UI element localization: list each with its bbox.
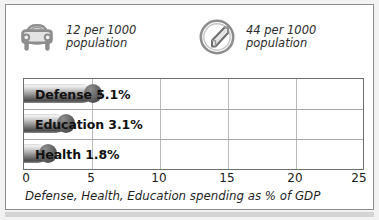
car-front-icon	[14, 15, 60, 59]
bar-row-health: Health 1.8%	[24, 139, 363, 169]
chart-canvas: Defense 5.1% Education 3.1% Health 1.8%	[24, 79, 363, 169]
chart-caption: Defense, Health, Education spending as %…	[25, 189, 320, 203]
x-tick-5: 5	[87, 171, 95, 185]
stat-telephones: 44 per 1000 population	[194, 13, 316, 61]
x-tick-20: 20	[287, 171, 302, 185]
stat-telephones-text: 44 per 1000 population	[246, 24, 316, 50]
bar-row-education: Education 3.1%	[24, 109, 363, 139]
telephone-handset-circle-icon	[194, 15, 240, 59]
bar-label-defense: Defense 5.1%	[35, 79, 130, 109]
bar-row-defense: Defense 5.1%	[24, 79, 363, 109]
content-frame: 12 per 1000 population 44 per 1000 popul…	[5, 4, 374, 210]
x-tick-15: 15	[219, 171, 234, 185]
chart-plot-area: Defense 5.1% Education 3.1% Health 1.8%	[23, 78, 364, 170]
bar-label-health: Health 1.8%	[35, 139, 119, 169]
x-axis: 0 5 10 15 20 25	[23, 171, 364, 187]
stat-cars-text: 12 per 1000 population	[66, 24, 136, 50]
screenshot-root: 12 per 1000 population 44 per 1000 popul…	[0, 0, 379, 220]
x-tick-10: 10	[151, 171, 166, 185]
stat-cars: 12 per 1000 population	[14, 13, 136, 61]
bar-label-education: Education 3.1%	[35, 109, 143, 139]
stats-row: 12 per 1000 population 44 per 1000 popul…	[6, 13, 373, 63]
x-tick-0: 0	[22, 171, 30, 185]
x-tick-25: 25	[351, 171, 366, 185]
bottom-strip	[5, 212, 374, 217]
